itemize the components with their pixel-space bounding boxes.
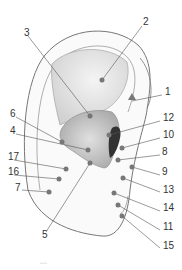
point-label-8: 8 <box>162 147 168 157</box>
point-label-6: 6 <box>10 109 16 119</box>
point-label-14: 14 <box>163 203 174 213</box>
point-label-15: 15 <box>163 241 174 251</box>
point-label-17: 17 <box>8 152 19 162</box>
point-label-2: 2 <box>143 17 149 27</box>
point-label-1: 1 <box>165 87 171 97</box>
point-label-13: 13 <box>163 185 174 195</box>
point-label-3: 3 <box>24 28 30 38</box>
point-label-4: 4 <box>10 126 16 136</box>
point-label-12: 12 <box>163 113 174 123</box>
ear-illustration <box>0 0 182 270</box>
point-label-10: 10 <box>163 130 174 140</box>
ear-diagram: 1234567891011121314151617 •••• <box>0 0 182 270</box>
point-label-11: 11 <box>163 222 173 232</box>
point-label-9: 9 <box>162 167 168 177</box>
footer-text: •••• <box>40 260 47 266</box>
point-label-5: 5 <box>42 230 48 240</box>
point-label-7: 7 <box>15 183 21 193</box>
point-label-16: 16 <box>8 167 19 177</box>
